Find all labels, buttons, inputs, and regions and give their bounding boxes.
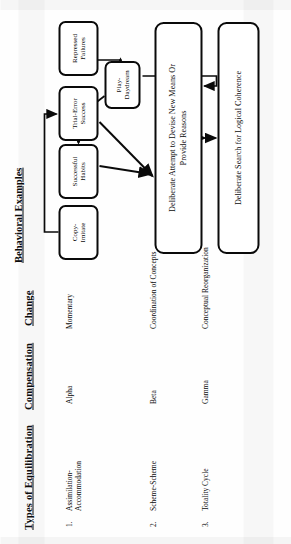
table-row-number: 1. [64,513,73,527]
table-cell-type: Assimilation- Accommodation [64,416,83,511]
node-trial-error-success: Trial-Error Success [58,86,98,141]
table-cell-compensation: Gamma [200,334,209,404]
node-successful-habits: Successful Habits [58,144,98,199]
column-header-compensation: Compensation [22,343,33,410]
table-row-number: 3. [200,513,209,527]
table-cell-compensation: Alpha [64,334,73,404]
node-copy-imitate: Copy- Imitate [58,205,98,260]
node-repressed-failures: Repressed Failures [58,21,98,76]
table-cell-type: Scheme-Scheme [148,416,157,511]
node-deliberate-attempt-devise-new-means: Deliberate Attempt to Devise New Means O… [154,22,202,254]
column-header-change: Change [22,290,33,326]
equilibration-table: Types of Equilibration Compensation Chan… [0,264,291,544]
node-play-daydream: Play-Daydream [104,61,140,109]
column-header-types-of-equilibration: Types of Equilibration [22,425,33,530]
table-cell-type: Totality Cycle [200,416,209,511]
behavioral-examples-flowchart: Behavioral Examples [0,0,291,272]
scanned-page: Types of Equilibration Compensation Chan… [0,0,291,544]
node-deliberate-search-logical-coherence: Deliberate Search for Logical Coherence [217,22,259,254]
table-cell-compensation: Beta [148,334,157,404]
table-row-number: 2. [148,513,157,527]
